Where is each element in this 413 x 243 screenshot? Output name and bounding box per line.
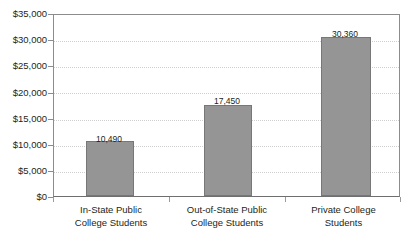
x-category-line: College Students [53,216,169,229]
x-tick-mark [285,197,286,202]
y-tick-label: $15,000 [0,114,47,124]
y-tick-label: $25,000 [0,61,47,71]
bar-value-label: 10,490 [85,134,133,144]
bar-out-of-state-public[interactable] [204,105,252,196]
bar-value-label: 17,450 [203,96,251,106]
x-category-line: Out-of-State Public [167,203,287,216]
x-tick-mark [53,197,54,202]
bar-value-label: 30,360 [320,29,370,39]
x-category-line: Private College [287,203,400,216]
x-tick-mark [169,197,170,202]
bar-in-state-public[interactable] [86,141,134,196]
x-category-label-private-college: Private College Students [287,203,400,229]
y-tick-label: $35,000 [0,9,47,19]
bar-chart: $35,000 $30,000 $25,000 $20,000 $15,000 … [0,0,413,243]
y-tick-label: $30,000 [0,35,47,45]
bar-private-college[interactable] [321,37,371,196]
x-category-line: College Students [167,216,287,229]
y-tick-label: $10,000 [0,140,47,150]
x-category-line: Students [287,216,400,229]
x-category-line: In-State Public [53,203,169,216]
x-category-label-in-state-public: In-State Public College Students [53,203,169,229]
y-tick-label: $0 [0,192,47,202]
y-tick-label: $5,000 [0,166,47,176]
y-tick-label: $20,000 [0,88,47,98]
x-tick-mark [400,197,401,202]
x-category-label-out-of-state-public: Out-of-State Public College Students [167,203,287,229]
